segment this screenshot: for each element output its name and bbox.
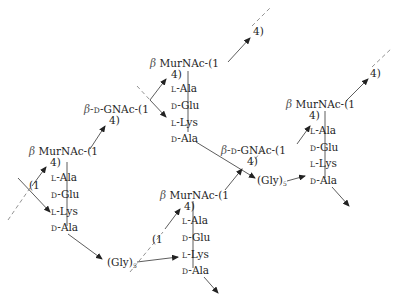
- peptidoglycan-diagram: β MurNAc-(1 4) 4) L-Ala D-Glu L-Lys D-Al…: [0, 0, 394, 299]
- unit4-peptide-1: L-Ala: [310, 125, 336, 137]
- unit2-link4: 4): [171, 69, 182, 80]
- unit1-peptide-2: D-Glu: [51, 189, 79, 201]
- unit4-peptide-2: D-Glu: [310, 142, 338, 154]
- unit2-top-link4: 4): [253, 26, 264, 37]
- gly2-label: (Gly)5: [257, 175, 287, 189]
- unit4-murnac: β MurNAc-(1: [286, 99, 355, 110]
- unit4-peptide-4: D-Ala: [310, 175, 337, 187]
- unit2-murnac: β MurNAc-(1: [150, 58, 219, 69]
- unit3-peptide-4: D-Ala: [182, 265, 209, 277]
- unit1-peptide-1: L-Ala: [51, 172, 77, 184]
- unit4-top-link4: 4): [370, 68, 381, 79]
- beta-symbol: β: [150, 57, 156, 69]
- unit1-peptide-4: D-Ala: [51, 222, 78, 234]
- unit2-peptide-3: L-Lys: [171, 117, 198, 129]
- gnac2-link4: 4): [247, 156, 258, 167]
- unit3-link4: 4): [184, 201, 195, 212]
- unit2-peptide-1: L-Ala: [171, 83, 197, 95]
- unit4-peptide-3: L-Lys: [310, 158, 337, 170]
- unit3-left-link: (1: [152, 234, 163, 245]
- gly1-label: (Gly)5: [107, 257, 137, 271]
- unit2-peptide-4: D-Ala: [171, 133, 198, 145]
- unit4-link4: 4): [309, 110, 320, 121]
- unit1-peptide-3: L-Lys: [51, 206, 78, 218]
- unit2-peptide-2: D-Glu: [171, 100, 199, 112]
- unit1-left-link: (1: [29, 180, 40, 191]
- unit3-peptide-3: L-Lys: [182, 249, 209, 261]
- gnac1-link4: 4): [109, 115, 120, 126]
- unit3-peptide-1: L-Ala: [182, 215, 208, 227]
- unit3-peptide-2: D-Glu: [182, 232, 210, 244]
- murnac-label: MurNAc-(1: [159, 57, 219, 69]
- unit1-murnac: β MurNAc-(1: [29, 146, 98, 157]
- unit1-link4: 4): [50, 157, 61, 168]
